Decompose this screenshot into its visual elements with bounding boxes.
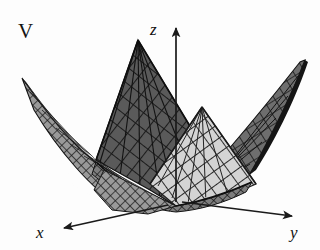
surface-plot-figure: V z x y [0, 0, 320, 250]
y-axis-label: y [288, 223, 298, 242]
z-axis-label: z [149, 20, 157, 39]
surface-plot-svg: V z x y [0, 0, 320, 250]
x-axis-label: x [35, 223, 44, 242]
figure-title-label: V [18, 19, 33, 43]
